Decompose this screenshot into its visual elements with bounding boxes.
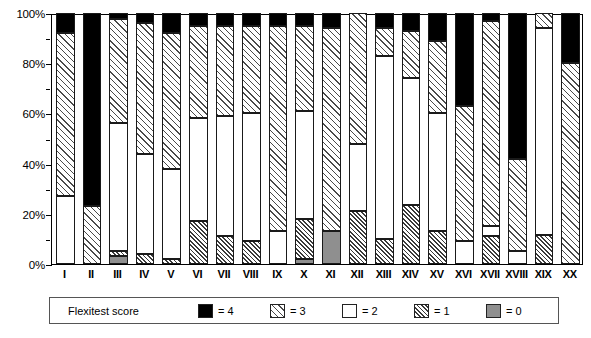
x-tick-label-XV: XV bbox=[423, 268, 450, 280]
bar-XIX bbox=[535, 13, 553, 264]
bar-segment-score-3 bbox=[136, 23, 154, 154]
bar-segment-score-2 bbox=[216, 116, 234, 236]
y-tick-label: 0% bbox=[29, 259, 45, 271]
bar-segment-score-4 bbox=[109, 13, 127, 19]
bar-segment-score-1 bbox=[428, 231, 446, 264]
bar-segment-score-3 bbox=[109, 19, 127, 123]
bar-IX bbox=[269, 13, 287, 264]
bar-segment-score-4 bbox=[428, 13, 446, 41]
bar-segment-score-2 bbox=[189, 118, 207, 221]
legend-swatch-solid-white bbox=[342, 304, 357, 318]
bar-segment-score-1 bbox=[375, 239, 393, 264]
bar-segment-score-4 bbox=[561, 13, 579, 63]
x-tick-label-XVI: XVI bbox=[450, 268, 477, 280]
legend-label: = 4 bbox=[218, 305, 234, 317]
legend-entries: = 4= 3= 2= 1= 0 bbox=[198, 304, 558, 318]
bar-segment-score-4 bbox=[83, 13, 101, 206]
y-minor-tick-mark bbox=[46, 140, 50, 141]
bar-segment-score-1 bbox=[162, 259, 180, 264]
bar-segment-score-3 bbox=[322, 28, 340, 231]
legend-entry-score-4: = 4 bbox=[198, 304, 270, 318]
bar-segment-score-1 bbox=[216, 236, 234, 264]
x-tick-label-VII: VII bbox=[211, 268, 238, 280]
bar-segment-score-0 bbox=[109, 256, 127, 264]
bar-XV bbox=[428, 13, 446, 264]
legend-swatch-light-diagonal-hatch bbox=[270, 304, 285, 318]
legend-label: = 0 bbox=[506, 305, 522, 317]
x-tick-label-XX: XX bbox=[556, 268, 583, 280]
bar-XIV bbox=[402, 13, 420, 264]
bar-segment-score-4 bbox=[189, 13, 207, 26]
legend-swatch-solid-black bbox=[198, 304, 213, 318]
bar-XVIII bbox=[508, 13, 526, 264]
x-tick-label-XIV: XIV bbox=[397, 268, 424, 280]
bar-XII bbox=[349, 13, 367, 264]
bar-segment-score-2 bbox=[162, 169, 180, 259]
y-tick-label: 100% bbox=[16, 8, 45, 20]
bar-segment-score-3 bbox=[162, 33, 180, 169]
bar-segment-score-3 bbox=[482, 21, 500, 227]
bar-I bbox=[56, 13, 74, 264]
bar-segment-score-2 bbox=[482, 226, 500, 236]
bar-IV bbox=[136, 13, 154, 264]
bar-segment-score-1 bbox=[136, 254, 154, 264]
bar-segment-score-4 bbox=[295, 13, 313, 26]
bar-segment-score-2 bbox=[402, 78, 420, 205]
legend-entry-score-2: = 2 bbox=[342, 304, 414, 318]
bar-segment-score-3 bbox=[428, 41, 446, 114]
bar-segment-score-4 bbox=[482, 13, 500, 21]
bar-X bbox=[295, 13, 313, 264]
legend-label: = 3 bbox=[290, 305, 306, 317]
x-tick-label-VI: VI bbox=[184, 268, 211, 280]
bar-segment-score-3 bbox=[455, 106, 473, 242]
x-tick-label-XII: XII bbox=[344, 268, 371, 280]
bar-segment-score-2 bbox=[375, 56, 393, 239]
bar-XVI bbox=[455, 13, 473, 264]
bar-segment-score-1 bbox=[402, 205, 420, 264]
bar-segment-score-1 bbox=[242, 241, 260, 264]
bar-segment-score-1 bbox=[295, 219, 313, 259]
bar-segment-score-4 bbox=[455, 13, 473, 106]
bar-segment-score-2 bbox=[136, 154, 154, 254]
bar-segment-score-3 bbox=[295, 26, 313, 111]
bar-segment-score-2 bbox=[428, 113, 446, 231]
x-tick-label-XIII: XIII bbox=[370, 268, 397, 280]
bar-segment-score-4 bbox=[269, 13, 287, 26]
bar-VIII bbox=[242, 13, 260, 264]
x-tick-label-III: III bbox=[104, 268, 131, 280]
bar-segment-score-4 bbox=[375, 13, 393, 28]
bar-segment-score-3 bbox=[508, 159, 526, 252]
x-tick-label-IV: IV bbox=[131, 268, 158, 280]
y-minor-tick-mark bbox=[46, 39, 50, 40]
bar-XX bbox=[561, 13, 579, 264]
bar-segment-score-3 bbox=[402, 31, 420, 79]
bar-segment-score-1 bbox=[482, 236, 500, 264]
bar-segment-score-4 bbox=[162, 13, 180, 33]
bar-segment-score-3 bbox=[242, 26, 260, 114]
bar-V bbox=[162, 13, 180, 264]
legend-entry-score-0: = 0 bbox=[486, 304, 558, 318]
bar-segment-score-4 bbox=[508, 13, 526, 159]
bar-segment-score-4 bbox=[322, 13, 340, 28]
legend-swatch-solid-gray bbox=[486, 304, 501, 318]
x-tick-label-II: II bbox=[78, 268, 105, 280]
legend-title: Flexitest score bbox=[68, 305, 198, 317]
bar-II bbox=[83, 13, 101, 264]
plot-area bbox=[51, 14, 583, 265]
bar-segment-score-4 bbox=[136, 13, 154, 23]
x-tick-label-XI: XI bbox=[317, 268, 344, 280]
x-tick-label-X: X bbox=[290, 268, 317, 280]
bar-VI bbox=[189, 13, 207, 264]
x-tick-label-I: I bbox=[51, 268, 78, 280]
bar-segment-score-0 bbox=[322, 231, 340, 264]
bar-segment-score-3 bbox=[216, 26, 234, 116]
chart-legend: Flexitest score = 4= 3= 2= 1= 0 bbox=[49, 297, 559, 324]
bar-segment-score-3 bbox=[189, 26, 207, 119]
bar-segment-score-2 bbox=[269, 231, 287, 264]
bar-segment-score-0 bbox=[295, 259, 313, 264]
bar-XIII bbox=[375, 13, 393, 264]
bar-segment-score-1 bbox=[189, 221, 207, 264]
bar-segment-score-3 bbox=[269, 26, 287, 232]
bar-segment-score-2 bbox=[242, 113, 260, 241]
y-axis: 0%20%40%60%80%100% bbox=[0, 0, 45, 338]
